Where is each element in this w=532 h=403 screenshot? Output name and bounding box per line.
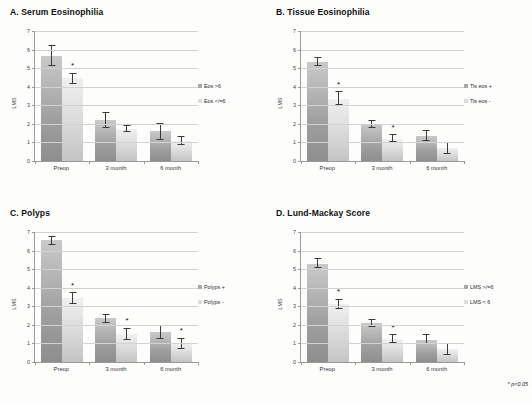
gridline [301,269,464,270]
error-bar [102,314,109,323]
gridline [35,50,198,51]
significance-footnote: * p<0.05 [508,381,528,387]
legend-item[interactable]: Tis eos + [464,83,526,89]
error-bar-cap-top [389,334,396,335]
legend-item[interactable]: Polyps + [198,284,260,290]
legend-item[interactable]: Tis eos - [464,98,526,104]
legend-item[interactable]: LMS >/=6 [464,284,526,290]
bar[interactable] [62,78,83,161]
x-tick-mark [144,362,145,365]
error-bar [69,73,76,84]
y-tick-label: 7 [293,229,296,235]
error-bar-stem [51,45,52,66]
error-bar [69,292,76,303]
x-tick-label: 6 month [410,366,464,372]
error-bar-cap-bottom [314,65,321,66]
legend-label: Polyps + [204,284,225,290]
bar[interactable] [328,99,349,161]
significance-asterisk: * [180,328,183,333]
x-tick-mark [410,161,411,164]
panel-title: B. Tissue Eosinophilia [276,7,528,17]
bar[interactable] [307,264,328,362]
plot-grid: ** [300,232,464,363]
error-bar-cap-bottom [444,354,451,355]
x-axis-ticklabels: Preop3 month6 month [300,366,464,372]
figure-panels: A. Serum Eosinophilia LMS 01234567 * Pre… [0,0,532,403]
y-tick-mark [32,343,35,344]
error-bar-cap-bottom [314,267,321,268]
y-tick-mark [32,124,35,125]
error-bar-stem [160,123,161,140]
y-tick-mark [298,68,301,69]
plot-area: LMS 01234567 ** Preop3 month6 month LMS … [272,220,528,388]
y-tick-label: 1 [27,139,30,145]
y-tick-mark [32,105,35,106]
bar[interactable] [41,56,62,161]
legend-swatch [464,285,468,289]
y-tick-label: 5 [27,266,30,272]
x-tick-label: Preop [300,165,354,171]
bar[interactable] [116,129,137,162]
bar[interactable] [62,298,83,362]
error-bar-cap-bottom [423,140,430,141]
legend-label: Tis eos - [470,98,490,104]
x-tick-mark [89,362,90,365]
y-tick-label: 6 [27,248,30,254]
y-axis-ticklabels: 01234567 [282,232,296,362]
error-bar [314,258,321,268]
error-bar-cap-top [102,314,109,315]
y-tick-label: 0 [27,158,30,164]
gridline [35,251,198,252]
legend-swatch [198,285,202,289]
gridline [35,124,198,125]
y-tick-mark [298,232,301,233]
error-bar [314,57,321,66]
bar[interactable] [328,304,349,362]
legend-item[interactable]: LMS < 6 [464,299,526,305]
legend-label: Eos >6 [204,83,221,89]
y-tick-mark [298,50,301,51]
y-tick-label: 5 [293,65,296,71]
error-bar [335,91,342,105]
x-tick-mark [198,161,199,164]
x-tick-mark [198,362,199,365]
gridline [301,306,464,307]
legend-item[interactable]: Eos </=6 [198,98,260,104]
y-tick-mark [32,87,35,88]
error-bar-cap-bottom [157,139,164,140]
plot-grid: ** [300,31,464,162]
x-tick-label: 6 month [410,165,464,171]
error-bar-cap-top [69,292,76,293]
y-tick-mark [32,251,35,252]
plot-area: LMS 01234567 * Preop3 month6 month Eos >… [6,19,262,187]
y-tick-mark [32,232,35,233]
y-tick-label: 2 [293,121,296,127]
gridline [301,105,464,106]
y-tick-mark [298,288,301,289]
x-tick-mark [464,362,465,365]
error-bar [48,236,55,245]
x-tick-mark [35,362,36,365]
error-bar [423,130,430,140]
gridline [35,232,198,233]
error-bar-cap-bottom [123,339,130,340]
error-bar-cap-bottom [368,326,375,327]
y-tick-mark [32,325,35,326]
y-tick-mark [298,343,301,344]
plot-area: LMS 01234567 *** Preop3 month6 month Pol… [6,220,262,388]
bar[interactable] [307,62,328,161]
y-tick-mark [298,142,301,143]
legend-label: LMS >/=6 [470,284,493,290]
error-bar-cap-bottom [178,144,185,145]
legend-item[interactable]: Eos >6 [198,83,260,89]
legend-item[interactable]: Polyps - [198,299,260,305]
plot-grid: * [34,31,198,162]
y-tick-mark [298,105,301,106]
error-bar [178,136,185,145]
y-tick-label: 2 [293,322,296,328]
y-tick-label: 4 [27,285,30,291]
y-tick-mark [298,325,301,326]
x-tick-label: 6 month [144,165,198,171]
y-axis-ticklabels: 01234567 [16,232,30,362]
y-tick-mark [32,269,35,270]
